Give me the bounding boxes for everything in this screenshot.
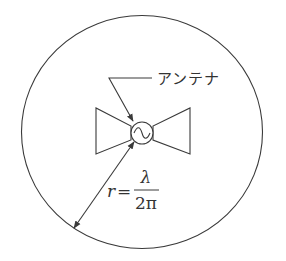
formula-numerator: λ xyxy=(140,167,152,187)
antenna-diagram: アンテナ r = λ 2π xyxy=(0,0,286,261)
antenna-leader-line xyxy=(109,78,152,121)
formula-r: r xyxy=(107,181,116,201)
antenna-label: アンテナ xyxy=(157,70,220,88)
formula-denominator: 2π xyxy=(135,193,157,213)
antenna-right-element xyxy=(153,108,190,154)
antenna-left-element xyxy=(96,108,131,154)
formula-equals: = xyxy=(117,181,131,201)
